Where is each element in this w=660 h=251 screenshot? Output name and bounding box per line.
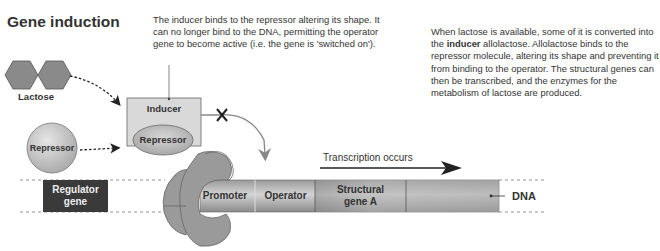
structural-gene-line2: gene A: [315, 196, 406, 208]
complex-inducer-label: Inducer: [129, 103, 199, 114]
repressor-to-complex-arrow: [80, 148, 118, 150]
regulator-gene-line1: Regulator: [43, 184, 108, 196]
structural-gene-line1: Structural: [315, 184, 406, 196]
promoter-label: Promoter: [195, 190, 255, 201]
complex-repressor-label: Repressor: [133, 134, 193, 145]
regulator-gene-line2: gene: [43, 196, 108, 208]
structural-gene-label: Structural gene A: [315, 184, 406, 208]
dna-label: DNA: [512, 190, 536, 202]
lactose-to-inducer-arrow: [70, 76, 119, 104]
operator-label: Operator: [256, 190, 315, 201]
blocked-binding-path: [201, 115, 265, 155]
regulator-gene-label: Regulator gene: [43, 184, 108, 208]
transcription-label: Transcription occurs: [323, 152, 413, 163]
lactose-icon: [5, 61, 71, 89]
lactose-label: Lactose: [6, 91, 66, 102]
gene-induction-diagram: [0, 0, 660, 251]
free-repressor-label: Repressor: [26, 143, 78, 153]
